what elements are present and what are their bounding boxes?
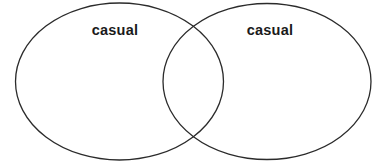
venn-label-left-set: casual [92, 23, 138, 38]
venn-diagram: casual casual [0, 0, 382, 165]
venn-diagram-canvas [0, 0, 382, 165]
venn-label-right-set: casual [247, 23, 293, 38]
